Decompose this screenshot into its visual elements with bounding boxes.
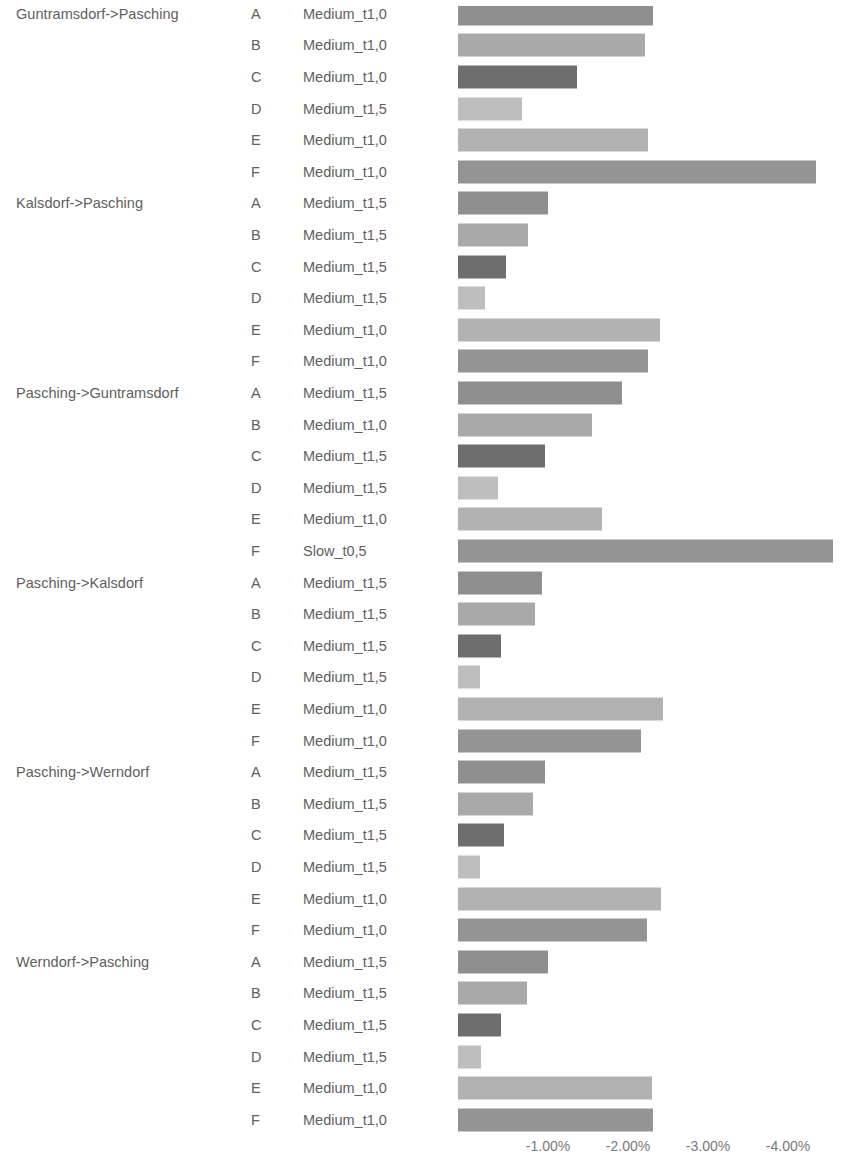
chart-row: EMedium_t1,0 [0, 1072, 851, 1104]
bar [458, 824, 504, 847]
chart-row: EMedium_t1,0 [0, 504, 851, 536]
bar [458, 65, 577, 88]
chart-row: DMedium_t1,5 [0, 282, 851, 314]
category-label: Medium_t1,5 [303, 101, 387, 117]
bar [458, 697, 663, 720]
bar [458, 160, 816, 183]
chart-row: Pasching->GuntramsdorfAMedium_t1,5 [0, 377, 851, 409]
chart-row: BMedium_t1,5 [0, 219, 851, 251]
bar [458, 539, 833, 562]
bar [458, 1077, 652, 1100]
category-label: Medium_t1,5 [303, 195, 387, 211]
category-label: Medium_t1,5 [303, 638, 387, 654]
bar [458, 287, 485, 310]
category-label: Medium_t1,5 [303, 448, 387, 464]
chart-row: FMedium_t1,0 [0, 725, 851, 757]
bar [458, 761, 545, 784]
chart-row: CMedium_t1,5 [0, 1009, 851, 1041]
chart-row: CMedium_t1,5 [0, 440, 851, 472]
category-label: Medium_t1,5 [303, 1049, 387, 1065]
chart-row: Kalsdorf->PaschingAMedium_t1,5 [0, 188, 851, 220]
segment-label: D [251, 1049, 261, 1065]
segment-label: F [251, 1112, 260, 1128]
chart-row: BMedium_t1,5 [0, 788, 851, 820]
bar [458, 887, 661, 910]
category-label: Medium_t1,0 [303, 132, 387, 148]
segment-label: E [251, 891, 261, 907]
bar [458, 129, 648, 152]
chart-row: DMedium_t1,5 [0, 93, 851, 125]
chart-row: Pasching->KalsdorfAMedium_t1,5 [0, 567, 851, 599]
bar [458, 508, 602, 531]
category-label: Medium_t1,5 [303, 764, 387, 780]
chart-row: EMedium_t1,0 [0, 124, 851, 156]
segment-label: F [251, 922, 260, 938]
chart-row: DMedium_t1,5 [0, 472, 851, 504]
segment-label: D [251, 290, 261, 306]
chart-row: EMedium_t1,0 [0, 883, 851, 915]
segment-label: D [251, 669, 261, 685]
x-axis-tick-label: -1.00% [526, 1138, 570, 1154]
bar [458, 445, 545, 468]
segment-label: F [251, 733, 260, 749]
category-label: Medium_t1,5 [303, 796, 387, 812]
segment-label: C [251, 638, 261, 654]
category-label: Medium_t1,0 [303, 164, 387, 180]
bar [458, 350, 648, 373]
bar [458, 381, 622, 404]
bar [458, 192, 548, 215]
chart-row: Werndorf->PaschingAMedium_t1,5 [0, 946, 851, 978]
bar [458, 476, 498, 499]
chart-row: CMedium_t1,5 [0, 820, 851, 852]
bar [458, 855, 480, 878]
bar [458, 919, 647, 942]
segment-label: E [251, 1080, 261, 1096]
bar [458, 413, 592, 436]
chart-row: FMedium_t1,0 [0, 156, 851, 188]
category-label: Medium_t1,0 [303, 37, 387, 53]
chart-row: CMedium_t1,5 [0, 251, 851, 283]
horizontal-bar-chart: Guntramsdorf->PaschingAMedium_t1,0BMediu… [0, 0, 851, 1162]
chart-row: BMedium_t1,5 [0, 598, 851, 630]
chart-row: CMedium_t1,0 [0, 61, 851, 93]
segment-label: C [251, 448, 261, 464]
segment-label: A [251, 575, 261, 591]
segment-label: C [251, 259, 261, 275]
chart-row: FSlow_t0,5 [0, 535, 851, 567]
category-label: Medium_t1,5 [303, 290, 387, 306]
group-label: Guntramsdorf->Pasching [16, 6, 179, 22]
category-label: Medium_t1,0 [303, 417, 387, 433]
segment-label: A [251, 6, 261, 22]
x-axis-tick-label: -2.00% [606, 1138, 650, 1154]
chart-row: EMedium_t1,0 [0, 314, 851, 346]
segment-label: D [251, 859, 261, 875]
segment-label: F [251, 353, 260, 369]
category-label: Medium_t1,5 [303, 859, 387, 875]
segment-label: E [251, 132, 261, 148]
category-label: Medium_t1,5 [303, 1017, 387, 1033]
category-label: Medium_t1,0 [303, 322, 387, 338]
bar [458, 318, 660, 341]
bar [458, 603, 535, 626]
bar [458, 729, 641, 752]
chart-row: BMedium_t1,0 [0, 409, 851, 441]
bar [458, 634, 501, 657]
segment-label: C [251, 69, 261, 85]
category-label: Medium_t1,5 [303, 227, 387, 243]
chart-row: Pasching->WerndorfAMedium_t1,5 [0, 756, 851, 788]
chart-row: FMedium_t1,0 [0, 1104, 851, 1136]
category-label: Medium_t1,5 [303, 259, 387, 275]
segment-label: F [251, 164, 260, 180]
segment-label: E [251, 701, 261, 717]
category-label: Slow_t0,5 [303, 543, 367, 559]
group-label: Pasching->Kalsdorf [16, 575, 143, 591]
segment-label: B [251, 606, 261, 622]
category-label: Medium_t1,0 [303, 1112, 387, 1128]
category-label: Medium_t1,0 [303, 353, 387, 369]
segment-label: B [251, 37, 261, 53]
chart-row: DMedium_t1,5 [0, 851, 851, 883]
chart-row: FMedium_t1,0 [0, 346, 851, 378]
bar [458, 1013, 501, 1036]
bar [458, 1045, 481, 1068]
chart-row: EMedium_t1,0 [0, 693, 851, 725]
